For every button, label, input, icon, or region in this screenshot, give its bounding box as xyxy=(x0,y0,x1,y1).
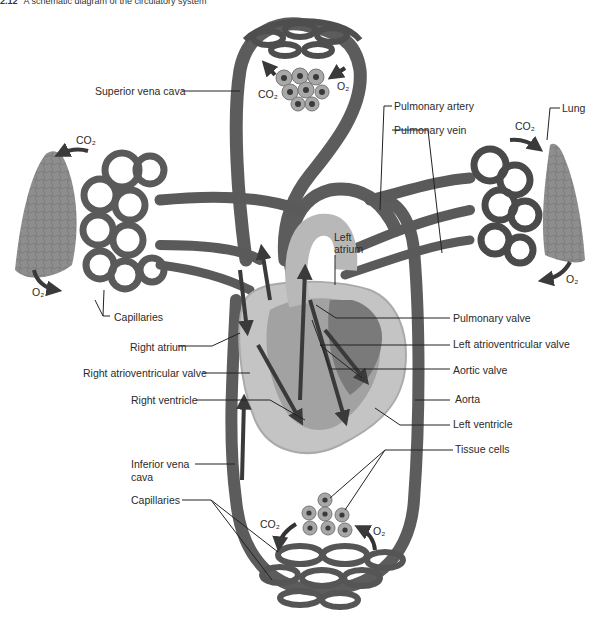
label-aortic-valve: Aortic valve xyxy=(453,364,507,376)
label-inferior-vena-cava-line1: Inferior vena xyxy=(131,458,189,470)
diagram-artwork xyxy=(0,0,597,618)
label-left-atrium-line2: atrium xyxy=(334,243,363,255)
label-capillaries-lower: Capillaries xyxy=(131,494,180,506)
label-left-atrium-line1: Left xyxy=(334,231,352,243)
label-aorta: Aorta xyxy=(455,393,480,405)
label-capillaries-upper: Capillaries xyxy=(114,311,163,323)
gas-label-co2-top: CO₂ xyxy=(258,88,278,100)
left-lung xyxy=(15,151,77,277)
gas-label-co2-left: CO₂ xyxy=(76,134,96,146)
gas-label-o2-bottom: O₂ xyxy=(373,525,385,537)
label-pulmonary-valve: Pulmonary valve xyxy=(453,312,531,324)
label-tissue-cells: Tissue cells xyxy=(455,443,509,455)
gas-label-o2-top: O₂ xyxy=(337,80,349,92)
gas-label-o2-left: O₂ xyxy=(32,286,44,298)
label-inferior-vena-cava-line2: cava xyxy=(131,471,153,483)
left-lung-capillaries xyxy=(83,153,164,289)
gas-label-o2-right: O₂ xyxy=(566,273,578,285)
label-pulmonary-artery: Pulmonary artery xyxy=(394,100,474,112)
label-left-av-valve: Left atrioventricular valve xyxy=(453,338,570,350)
label-right-atrium: Right atrium xyxy=(130,341,187,353)
gas-label-co2-bottom: CO₂ xyxy=(260,518,280,530)
right-lung xyxy=(543,144,585,263)
label-superior-vena-cava: Superior vena cava xyxy=(95,85,185,97)
gas-label-co2-right: CO₂ xyxy=(515,120,535,132)
lower-tissue-cells xyxy=(279,493,375,550)
circulatory-system-diagram: 2.12A schematic diagram of the circulato… xyxy=(0,0,597,618)
label-right-ventricle: Right ventricle xyxy=(131,394,198,406)
label-lung: Lung xyxy=(562,102,585,114)
right-lung-capillaries xyxy=(474,149,539,263)
label-left-ventricle: Left ventricle xyxy=(453,418,513,430)
label-pulmonary-vein: Pulmonary vein xyxy=(394,124,466,136)
upper-tissue-cells xyxy=(266,65,345,111)
label-right-av-valve: Right atrioventricular valve xyxy=(83,367,207,379)
